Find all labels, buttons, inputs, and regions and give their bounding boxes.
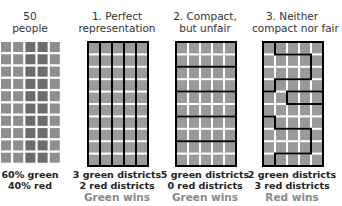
district-grid-horizontal <box>175 41 237 167</box>
title-line: representation <box>77 22 157 34</box>
panel-title: 50 people <box>0 10 70 34</box>
title-line: 50 <box>0 10 70 22</box>
stats-line: 2 red districts <box>67 180 167 191</box>
panel-title: 1. Perfect representation <box>77 10 157 34</box>
population-grid <box>0 41 62 165</box>
title-line: but unfair <box>165 22 245 34</box>
title-line: compact nor fair <box>252 22 332 34</box>
stats-line: 3 red districts <box>242 180 342 191</box>
panel-title: 3. Neither compact nor fair <box>252 10 332 34</box>
district-grid-gerrymandered <box>262 41 324 167</box>
title-line: people <box>0 22 70 34</box>
panel-stats: 3 green districts 2 red districts <box>67 169 167 191</box>
stats-line: 2 green districts <box>242 169 342 180</box>
verdict-label: Green wins <box>67 191 167 203</box>
stats-line: 5 green districts <box>155 169 255 180</box>
district-grid-vertical <box>87 41 149 167</box>
panel-title: 2. Compact, but unfair <box>165 10 245 34</box>
panel-population: 50 people 60% green 40% red <box>0 0 70 206</box>
panel-compact-unfair: 2. Compact, but unfair 5 green districts… <box>165 0 245 206</box>
panel-perfect-representation: 1. Perfect representation 3 green distri… <box>77 0 157 206</box>
panel-stats: 2 green districts 3 red districts <box>242 169 342 191</box>
title-line: 2. Compact, <box>165 10 245 22</box>
stats-line: 3 green districts <box>67 169 167 180</box>
verdict-label: Red wins <box>242 191 342 203</box>
panel-neither-compact-nor-fair: 3. Neither compact nor fair 2 green dist… <box>252 0 332 206</box>
title-line: 1. Perfect <box>77 10 157 22</box>
stats-line: 0 red districts <box>155 180 255 191</box>
panel-stats: 5 green districts 0 red districts <box>155 169 255 191</box>
verdict-label: Green wins <box>155 191 255 203</box>
title-line: 3. Neither <box>252 10 332 22</box>
